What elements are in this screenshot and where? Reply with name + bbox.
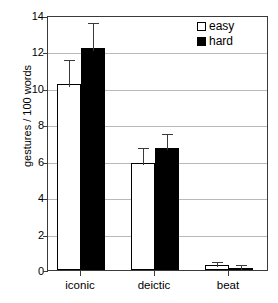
y-tick-mark-0 bbox=[43, 271, 48, 272]
y-tick-label-4: 4 bbox=[2, 193, 44, 204]
x-tick-mark-beat bbox=[228, 271, 229, 276]
legend-label-easy: easy bbox=[209, 20, 234, 33]
errorbar-line-iconic-hard bbox=[93, 23, 94, 50]
x-tick-mark-deictic bbox=[154, 271, 155, 276]
errorbar-line-deictic-hard bbox=[167, 134, 168, 150]
y-tick-label-12: 12 bbox=[2, 47, 44, 58]
bar-deictic-easy bbox=[131, 163, 155, 270]
y-axis-tick-labels: 0 2 4 6 8 10 12 14 bbox=[0, 16, 44, 271]
y-tick-label-0: 0 bbox=[2, 266, 44, 277]
plot-area: easy hard bbox=[47, 16, 268, 271]
legend-label-hard: hard bbox=[209, 35, 233, 48]
y-tick-mark-8 bbox=[43, 126, 48, 127]
legend: easy hard bbox=[197, 19, 261, 49]
errorbar-line-iconic-easy bbox=[69, 60, 70, 87]
x-tick-label-beat: beat bbox=[191, 278, 265, 292]
bar-iconic-easy bbox=[57, 84, 81, 270]
y-tick-mark-6 bbox=[43, 163, 48, 164]
legend-item-easy: easy bbox=[197, 19, 261, 34]
y-tick-mark-2 bbox=[43, 236, 48, 237]
y-tick-mark-10 bbox=[43, 90, 48, 91]
errorbar-cap-deictic-easy bbox=[138, 148, 149, 149]
y-tick-mark-4 bbox=[43, 199, 48, 200]
bar-deictic-hard bbox=[155, 148, 179, 270]
x-tick-label-iconic: iconic bbox=[43, 278, 117, 292]
y-tick-label-10: 10 bbox=[2, 84, 44, 95]
errorbar-cap-beat-hard bbox=[236, 265, 247, 266]
y-tick-label-2: 2 bbox=[2, 230, 44, 241]
y-tick-label-14: 14 bbox=[2, 11, 44, 22]
errorbar-cap-beat-easy bbox=[212, 262, 223, 263]
legend-swatch-filled-square-icon bbox=[197, 37, 206, 46]
errorbar-line-deictic-easy bbox=[143, 148, 144, 164]
y-tick-mark-14 bbox=[43, 17, 48, 18]
x-tick-mark-iconic bbox=[80, 271, 81, 276]
errorbar-cap-iconic-easy bbox=[64, 60, 75, 61]
bar-chart-figure: gestures / 100 words 0 2 4 6 8 10 12 14 bbox=[0, 0, 278, 303]
y-tick-label-6: 6 bbox=[2, 157, 44, 168]
y-tick-mark-12 bbox=[43, 53, 48, 54]
x-tick-label-deictic: deictic bbox=[117, 278, 191, 292]
legend-item-hard: hard bbox=[197, 34, 261, 49]
legend-swatch-open-square-icon bbox=[197, 22, 206, 31]
errorbar-cap-deictic-hard bbox=[162, 134, 173, 135]
y-tick-label-8: 8 bbox=[2, 120, 44, 131]
bar-iconic-hard bbox=[81, 48, 105, 270]
errorbar-cap-iconic-hard bbox=[88, 23, 99, 24]
